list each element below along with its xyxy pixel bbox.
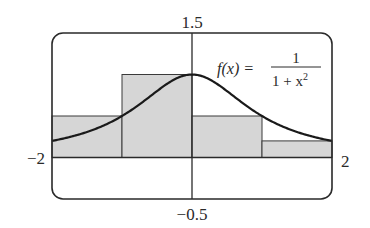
riemann-rectangle [262,141,332,158]
function-label: f(x) = 1 1 + x2 [217,50,321,89]
riemann-rectangle [122,75,192,158]
riemann-rectangle [192,116,262,158]
ymax-label: 1.5 [181,13,202,32]
xmax-label: 2 [341,152,350,171]
fraction-denominator: 1 + x2 [272,71,308,89]
fraction-numerator: 1 [292,50,300,66]
xmin-label: −2 [27,149,45,168]
function-lhs: f(x) = [217,60,254,78]
riemann-sum-figure: 1.5 −0.5 −2 2 f(x) = 1 1 + x2 [0,0,370,228]
ymin-label: −0.5 [177,205,208,224]
